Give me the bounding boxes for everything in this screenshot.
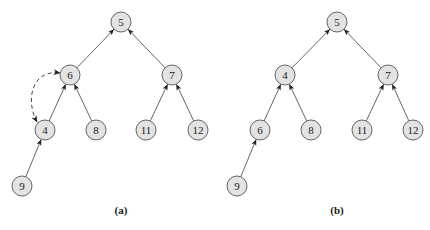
swap-layer [31,73,60,122]
edge-b11-to-b7 [366,84,383,120]
node-label: 5 [118,16,124,28]
edge-b4-to-b5 [292,29,330,67]
node-b6: 6 [250,120,270,140]
edge-a6-to-a5 [77,30,114,68]
edge-b8-to-b4 [289,84,306,120]
node-a5: 5 [111,12,131,32]
node-b11: 11 [352,120,372,140]
heap-diagram: 56748111295476811129 (a) (b) [0,0,430,230]
node-a9: 9 [12,176,32,196]
node-label: 11 [141,124,152,136]
node-b4: 4 [275,65,295,85]
node-label: 12 [193,124,204,136]
node-a11: 11 [136,120,156,140]
node-b12: 12 [403,120,423,140]
nodes-layer: 56748111295476811129 [12,12,423,196]
node-label: 7 [169,69,175,81]
edge-b12-to-b7 [392,85,409,121]
node-label: 6 [67,69,73,81]
node-label: 4 [282,69,288,81]
edge-b7-to-b5 [344,30,381,68]
edge-a9-to-a4 [26,140,41,177]
edges-layer [26,29,409,176]
node-a8: 8 [86,120,106,140]
node-label: 5 [334,16,340,28]
node-a4: 4 [35,120,55,140]
node-label: 4 [42,124,48,136]
swap-arrow [31,73,60,122]
node-label: 9 [19,180,25,192]
node-label: 9 [234,180,240,192]
caption-b: (b) [330,204,344,217]
node-b9: 9 [227,176,247,196]
node-a7: 7 [162,65,182,85]
node-label: 6 [257,124,263,136]
node-label: 8 [308,124,314,136]
edge-a12-to-a7 [176,84,193,120]
edge-b6-to-b4 [264,85,281,121]
node-a6: 6 [60,65,80,85]
caption-a: (a) [115,204,128,217]
edge-a11-to-a7 [150,84,167,120]
node-b7: 7 [378,65,398,85]
node-a12: 12 [188,120,208,140]
edge-a4-to-a6 [49,85,66,121]
node-b8: 8 [301,120,321,140]
node-label: 8 [93,124,99,136]
node-b5: 5 [327,12,347,32]
node-label: 12 [408,124,419,136]
node-label: 7 [385,69,391,81]
edge-b9-to-b6 [241,140,256,177]
node-label: 11 [357,124,368,136]
edge-a7-to-a5 [128,30,165,68]
edge-a8-to-a6 [74,84,91,120]
